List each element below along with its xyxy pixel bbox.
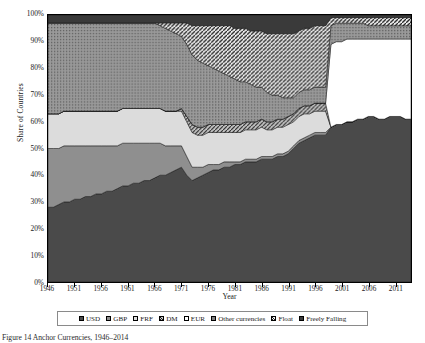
x-axis-label: Year (47, 292, 412, 301)
x-tick-mark (396, 283, 397, 287)
legend-item: DM (159, 315, 178, 323)
y-tick-label: 20% (4, 225, 44, 233)
legend-label: DM (166, 315, 177, 323)
legend-label: GBP (113, 315, 127, 323)
legend-label: Float (278, 315, 293, 323)
legend-swatch-dm (159, 316, 164, 321)
y-tick-label: 50% (4, 145, 44, 153)
legend-label: Other currencies (218, 315, 265, 323)
legend-item: USD (79, 315, 100, 323)
legend-item: EUR (184, 315, 205, 323)
x-tick-mark (181, 283, 182, 287)
y-tick-label: 90% (4, 37, 44, 45)
legend-label: FRF (140, 315, 153, 323)
legend-swatch-gbp (106, 316, 111, 321)
legend-swatch-other-currencies (211, 316, 216, 321)
x-tick-mark (315, 283, 316, 287)
x-tick-mark (342, 283, 343, 287)
x-tick-mark (154, 283, 155, 287)
legend-swatch-frf (133, 316, 138, 321)
x-tick-mark (262, 283, 263, 287)
x-tick-mark (74, 283, 75, 287)
legend-item: FRF (133, 315, 153, 323)
y-tick-label: 30% (4, 198, 44, 206)
legend-swatch-eur (184, 316, 189, 321)
x-tick-mark (289, 283, 290, 287)
legend-label: USD (86, 315, 100, 323)
legend-item: GBP (106, 315, 127, 323)
x-tick-mark (235, 283, 236, 287)
legend-label: Freely Falling (306, 315, 346, 323)
legend-swatch-usd (79, 316, 84, 321)
stacked-area-chart (48, 15, 411, 282)
figure-anchor-currencies: Share of Countries 0%10%20%30%40%50%60%7… (0, 0, 425, 343)
y-tick-label: 70% (4, 91, 44, 99)
figure-caption: Figure 14 Anchor Currencies, 1946–2014 (2, 333, 128, 342)
x-tick-mark (369, 283, 370, 287)
x-tick-mark (128, 283, 129, 287)
x-tick-mark (208, 283, 209, 287)
x-tick-mark (101, 283, 102, 287)
legend-item: Other currencies (211, 315, 265, 323)
legend-swatch-freely-falling (299, 316, 304, 321)
legend-swatch-float (271, 316, 276, 321)
legend-label: EUR (191, 315, 205, 323)
chart-legend: USDGBPFRFDMEUROther currenciesFloatFreel… (57, 311, 368, 326)
y-tick-label: 40% (4, 171, 44, 179)
legend-item: Float (271, 315, 293, 323)
x-tick-mark (47, 283, 48, 287)
y-tick-label: 10% (4, 252, 44, 260)
chart-plot-area (47, 14, 412, 283)
y-tick-label: 100% (4, 10, 44, 18)
y-tick-label: 80% (4, 64, 44, 72)
legend-item: Freely Falling (299, 315, 346, 323)
y-tick-label: 60% (4, 118, 44, 126)
